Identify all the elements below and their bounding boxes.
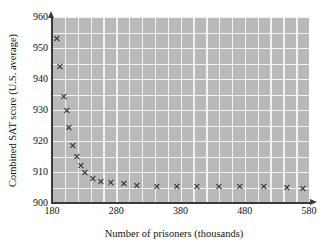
data-point [70,142,77,149]
x-tick-label: 280 [96,205,136,216]
y-axis-arrow-icon [48,11,54,18]
x-axis-line [51,202,311,204]
gridline-horizontal [52,172,309,173]
gridline-horizontal [52,17,309,18]
gridline-horizontal [52,48,309,49]
gridline-horizontal [52,126,309,127]
gridline-horizontal [52,95,309,96]
data-point [54,35,61,42]
y-axis-line [51,17,53,204]
y-tick-label: 920 [2,136,48,146]
x-tick-label: 380 [161,205,201,216]
x-tick-label: 480 [225,205,265,216]
gridline-horizontal [52,188,309,189]
x-axis-title: Number of prisoners (thousands) [34,228,314,239]
gridline-horizontal [52,79,309,80]
y-tick-label: 910 [2,167,48,177]
y-tick-label: 960 [2,12,48,22]
y-tick-label: 950 [2,43,48,53]
gridline-horizontal [52,33,309,34]
gridline-horizontal [52,157,309,158]
y-tick-label: 940 [2,74,48,84]
gridline-horizontal [52,110,309,111]
y-tick-label: 930 [2,105,48,115]
plot-area [52,17,309,203]
gridline-horizontal [52,141,309,142]
gridline-horizontal [52,64,309,65]
data-point [120,180,127,187]
data-point [108,179,115,186]
x-tick-label: 580 [289,205,327,216]
x-tick-label: 180 [32,205,72,216]
scatter-chart: Combined SAT score (U.S. average) 900910… [0,0,327,250]
